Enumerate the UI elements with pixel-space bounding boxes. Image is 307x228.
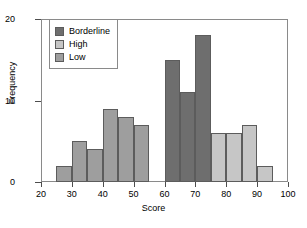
x-tick-mark [257,182,258,187]
bar [195,35,210,182]
legend-item: Borderline [55,25,110,37]
bar [180,92,195,182]
legend-label: High [69,40,88,49]
legend-label: Borderline [69,27,110,36]
y-tick-mark [35,19,41,20]
y-tick-mark [35,101,41,102]
bar [257,166,272,182]
x-tick-label: 100 [276,189,300,199]
bar [87,149,102,182]
legend-item: High [55,38,110,50]
bar [56,166,71,182]
x-tick-label: 90 [245,189,269,199]
bar [165,60,180,182]
chart-legend: BorderlineHighLow [49,19,118,69]
x-tick-mark [288,182,289,187]
x-tick-label: 60 [153,189,177,199]
y-tick-label: 20 [5,14,15,24]
bar [118,117,133,182]
legend-swatch [55,27,64,36]
x-tick-mark [41,182,42,187]
y-axis-label: Frequency [7,47,17,119]
x-tick-label: 20 [29,189,53,199]
bar [242,125,257,182]
y-tick-label: 0 [10,177,15,187]
bar [226,133,241,182]
legend-swatch [55,40,64,49]
x-tick-label: 50 [122,189,146,199]
bar [72,141,87,182]
legend-swatch [55,53,64,62]
x-tick-mark [103,182,104,187]
x-tick-mark [226,182,227,187]
x-axis-label: Score [0,203,307,213]
x-tick-label: 40 [91,189,115,199]
x-tick-mark [72,182,73,187]
legend-label: Low [69,53,86,62]
bar [211,133,226,182]
bar [134,125,149,182]
x-tick-label: 80 [214,189,238,199]
histogram-chart: 010202030405060708090100 Frequency Score… [0,0,307,228]
bar [103,109,118,182]
x-tick-mark [134,182,135,187]
x-tick-mark [165,182,166,187]
x-tick-label: 30 [60,189,84,199]
legend-item: Low [55,51,110,63]
x-tick-mark [195,182,196,187]
x-tick-label: 70 [183,189,207,199]
